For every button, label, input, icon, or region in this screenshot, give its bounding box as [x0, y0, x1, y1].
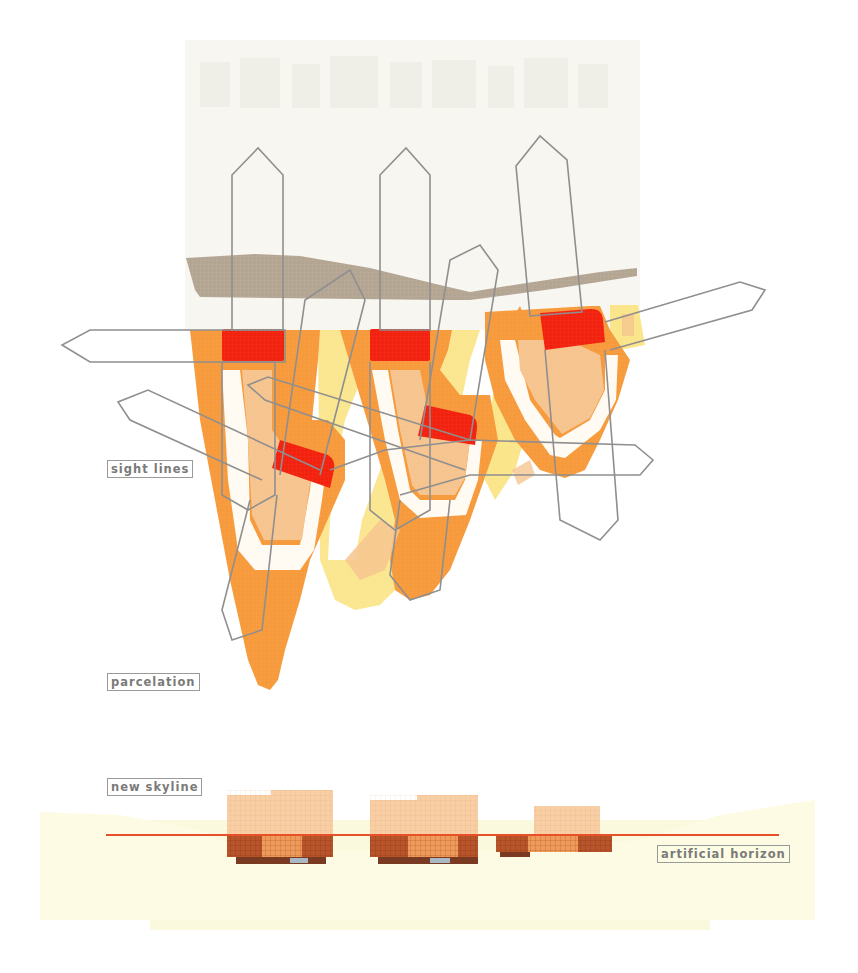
label-parcelation: parcelation — [107, 673, 200, 691]
label-new-skyline: new skyline — [107, 778, 202, 796]
building-cluster-1 — [227, 790, 333, 864]
label-sight-lines: sight lines — [107, 460, 193, 478]
urban-concept-diagram — [0, 0, 858, 973]
label-artificial-horizon: artificial horizon — [657, 845, 790, 863]
building-cluster-2 — [370, 795, 478, 864]
